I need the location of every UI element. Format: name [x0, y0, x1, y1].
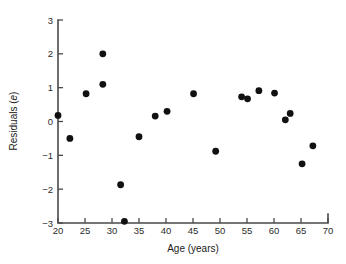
data-point [121, 218, 128, 225]
y-tick-label: −1 [42, 150, 53, 161]
data-point [299, 160, 306, 167]
data-point [238, 93, 245, 100]
data-point [309, 142, 316, 149]
y-tick-label: 2 [48, 48, 53, 59]
data-point [255, 87, 262, 94]
x-tick-label: 20 [53, 225, 64, 236]
x-tick-label: 35 [134, 225, 145, 236]
data-point [287, 110, 294, 117]
data-point [212, 148, 219, 155]
y-axis-title: Residuals (e) [8, 92, 19, 151]
x-tick-label: 40 [161, 225, 172, 236]
data-point [66, 135, 73, 142]
plot-area: 2025303540455055606570 −3−2−10123 Age (y… [0, 0, 346, 264]
data-point [136, 133, 143, 140]
x-tick-label: 25 [80, 225, 91, 236]
data-point [117, 181, 124, 188]
data-point [244, 95, 251, 102]
residual-scatter-chart: 2025303540455055606570 −3−2−10123 Age (y… [0, 0, 346, 264]
y-tick-label: 0 [48, 116, 53, 127]
data-point [99, 50, 106, 57]
y-tick-label: −3 [42, 218, 53, 229]
data-points-group [55, 50, 317, 224]
x-tick-label: 60 [269, 225, 280, 236]
data-point [271, 90, 278, 97]
x-tick-label: 55 [242, 225, 253, 236]
x-tick-label: 65 [296, 225, 307, 236]
data-point [83, 90, 90, 97]
y-tick-label: 3 [48, 15, 53, 26]
data-point [55, 112, 62, 119]
y-tick-label: 1 [48, 82, 53, 93]
x-tick-label: 45 [188, 225, 199, 236]
x-tick-label: 50 [215, 225, 226, 236]
data-point [164, 108, 171, 115]
x-axis-title: Age (years) [167, 243, 219, 254]
data-point [99, 81, 106, 88]
x-axis-tick-labels: 2025303540455055606570 [53, 225, 334, 236]
x-tick-label: 30 [107, 225, 118, 236]
data-point [282, 116, 289, 123]
data-point [152, 113, 159, 120]
y-axis-tick-labels: −3−2−10123 [42, 15, 53, 229]
x-tick-label: 70 [323, 225, 334, 236]
y-tick-label: −2 [42, 184, 53, 195]
data-point [190, 90, 197, 97]
